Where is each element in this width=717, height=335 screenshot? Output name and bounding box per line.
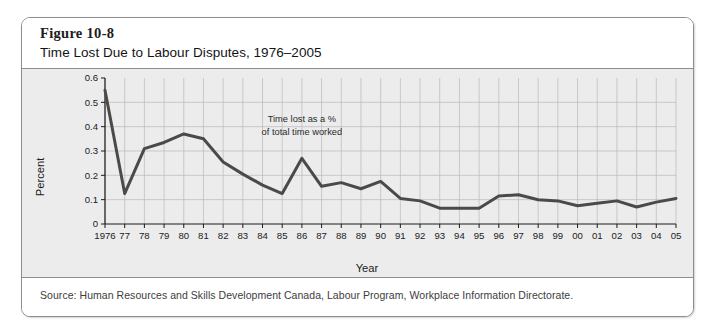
data-series [105, 90, 676, 208]
x-axis-tick-label: 88 [336, 230, 347, 241]
y-axis-tick-label: 0.3 [85, 145, 98, 156]
y-axis-tick-label: 0.1 [85, 194, 98, 205]
x-axis-tick-label: 78 [139, 230, 150, 241]
line-chart: 00.10.20.30.40.50.6 19767778798081828384… [22, 69, 693, 277]
x-axis-tick-label: 93 [434, 230, 445, 241]
x-axis-tick-label: 86 [297, 230, 308, 241]
x-axis-tick-label: 92 [415, 230, 426, 241]
x-axis-tick-label: 00 [572, 230, 583, 241]
x-axis-tick-label: 05 [671, 230, 682, 241]
figure-title: Time Lost Due to Labour Disputes, 1976–2… [40, 43, 693, 63]
y-axis-label: Percent [34, 157, 46, 196]
x-axis-tick-label: 95 [474, 230, 485, 241]
x-axis-tick-label: 91 [395, 230, 406, 241]
gridlines [105, 78, 676, 224]
x-axis-tick-label: 94 [454, 230, 465, 241]
x-axis-tick-label: 80 [178, 230, 189, 241]
x-axis-tick-label: 83 [237, 230, 248, 241]
source-note: Source: Human Resources and Skills Devel… [40, 289, 573, 301]
annotation-line-1: Time lost as a % [268, 114, 336, 124]
x-axis-tick-label: 02 [612, 230, 623, 241]
series-line [105, 90, 676, 208]
annotation-line-2: of total time worked [262, 127, 343, 137]
x-axis-tick-label: 82 [218, 230, 229, 241]
x-axis-tick-label: 81 [198, 230, 209, 241]
x-axis-tick-label: 04 [651, 230, 662, 241]
figure-footer: Source: Human Resources and Skills Devel… [22, 278, 693, 317]
y-axis-tick-label: 0.4 [85, 121, 99, 132]
chart-plot-area: 00.10.20.30.40.50.6 19767778798081828384… [22, 69, 693, 278]
x-axis-tick-label: 1976 [94, 230, 115, 241]
x-axis-tick-label: 89 [356, 230, 367, 241]
x-axis-tick-label: 87 [316, 230, 327, 241]
x-axis-tick-label: 97 [513, 230, 524, 241]
x-axis-tick-label: 96 [493, 230, 504, 241]
y-axis: 00.10.20.30.40.50.6 [85, 72, 105, 229]
figure-number: Figure 10-8 [40, 24, 693, 43]
x-axis: 1976777879808182838485868788899091929394… [94, 224, 681, 241]
figure-header: Figure 10-8 Time Lost Due to Labour Disp… [22, 18, 693, 69]
x-axis-tick-label: 79 [159, 230, 170, 241]
x-axis-tick-label: 77 [119, 230, 130, 241]
x-axis-tick-label: 01 [592, 230, 603, 241]
x-axis-tick-label: 90 [375, 230, 386, 241]
x-axis-tick-label: 99 [553, 230, 564, 241]
y-axis-tick-label: 0.5 [85, 97, 98, 108]
x-axis-label: Year [356, 262, 379, 274]
y-axis-tick-label: 0.6 [85, 72, 98, 83]
y-axis-tick-label: 0.2 [85, 170, 98, 181]
x-axis-tick-label: 84 [257, 230, 268, 241]
figure-panel: Figure 10-8 Time Lost Due to Labour Disp… [21, 17, 694, 317]
x-axis-tick-label: 03 [631, 230, 642, 241]
x-axis-tick-label: 98 [533, 230, 544, 241]
y-axis-tick-label: 0 [93, 218, 98, 229]
x-axis-tick-label: 85 [277, 230, 288, 241]
